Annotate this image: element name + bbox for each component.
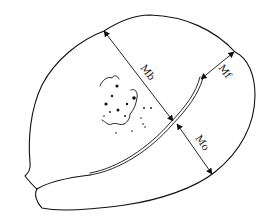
suture-line-outer [90,78,203,175]
label-mo: Mo [193,133,211,153]
measurement-mf: Mf [201,52,234,81]
label-mf: Mf [216,62,234,81]
hilum-region [100,76,152,134]
seed-diagram: Mb Mf Mo [0,0,269,218]
lower-lobe-outline [37,175,90,189]
suture-line-inner [90,77,200,173]
measurement-mo: Mo [177,124,212,174]
